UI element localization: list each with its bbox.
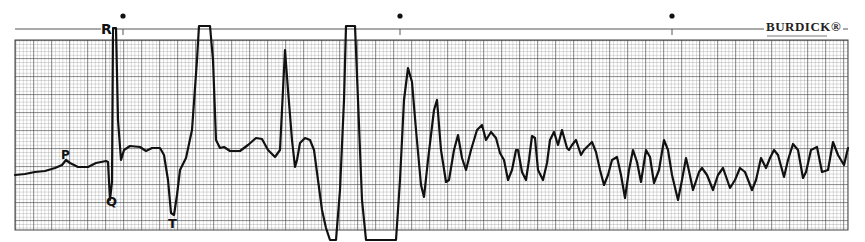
timing-dot bbox=[120, 13, 125, 18]
brand-logo: BURDICK® bbox=[764, 20, 843, 34]
ecg-strip bbox=[0, 0, 865, 242]
brand-underline bbox=[767, 35, 827, 37]
q-wave-label: Q bbox=[106, 195, 117, 208]
timing-marks bbox=[120, 13, 674, 35]
t-wave-label: T bbox=[168, 217, 177, 230]
timing-dot bbox=[397, 13, 402, 18]
timing-dot bbox=[669, 13, 674, 18]
p-wave-label: P bbox=[61, 149, 70, 161]
r-wave-label: R bbox=[101, 22, 112, 36]
